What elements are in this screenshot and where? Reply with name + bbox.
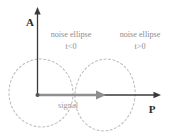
- noise-ellipse-negative-t: [5, 55, 78, 131]
- noise-ellipse-negative-t-label-line1: noise ellipse: [51, 30, 92, 39]
- horizontal-axis-label: P: [149, 103, 156, 115]
- origin-point: [36, 93, 40, 97]
- noise-ellipse-negative-t-shape: [5, 55, 78, 131]
- vertical-axis-label: A: [26, 16, 34, 28]
- horizontal-axis-arrowhead-icon: [154, 92, 162, 98]
- noise-ellipse-positive-t-label-line1: noise ellipse: [120, 30, 161, 39]
- signal-label: signal: [58, 101, 79, 110]
- phase-amplitude-noise-diagram: A P signal noise ellipse t<0 noise ellip…: [0, 0, 181, 138]
- diagram-canvas: A P signal noise ellipse t<0 noise ellip…: [0, 0, 181, 138]
- signal-vector: [38, 91, 106, 100]
- noise-ellipse-negative-t-label-line2: t<0: [66, 42, 77, 51]
- vertical-axis-arrowhead-icon: [34, 7, 40, 15]
- noise-ellipse-positive-t-label-line2: t>0: [135, 42, 146, 51]
- vertical-axis: [34, 7, 40, 95]
- signal-vector-arrowhead-icon: [96, 91, 106, 100]
